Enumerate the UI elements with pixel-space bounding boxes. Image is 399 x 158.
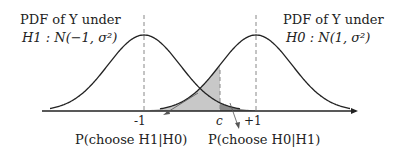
tick-c: c <box>216 114 223 128</box>
x-axis-arrow-icon <box>351 108 358 114</box>
h0-title-line1: PDF of Y under <box>283 12 384 28</box>
tick-minus1: -1 <box>134 114 146 128</box>
h0-title-line2: H0 : N(1, σ²) <box>286 30 370 46</box>
type1-error-label: P(choose H1|H0) <box>75 132 187 148</box>
tick-plus1: +1 <box>244 114 262 128</box>
hypothesis-test-diagram: PDF of Y under H1 : N(−1, σ²) PDF of Y u… <box>0 0 399 158</box>
h1-title-line2: H1 : N(−1, σ²) <box>22 30 117 46</box>
h1-pdf-curve <box>50 35 240 109</box>
type2-pointer-arrow <box>230 103 238 126</box>
type2-error-region <box>220 103 255 111</box>
type2-arrowhead-icon <box>235 122 240 129</box>
type2-error-label: P(choose H0|H1) <box>208 132 320 148</box>
h1-title-line1: PDF of Y under <box>20 12 121 28</box>
h0-pdf-curve <box>160 35 350 109</box>
